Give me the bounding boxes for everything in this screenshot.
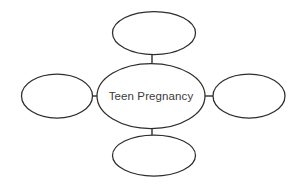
concept-map-diagram: Teen Pregnancy <box>0 0 304 189</box>
branch-node-left-ellipse[interactable] <box>22 74 93 118</box>
concept-map-canvas: Teen Pregnancy <box>0 0 304 189</box>
branch-node-right[interactable] <box>213 74 285 118</box>
branch-node-bottom-ellipse[interactable] <box>113 135 196 176</box>
branch-node-right-ellipse[interactable] <box>213 74 285 118</box>
branch-node-top-ellipse[interactable] <box>113 12 196 55</box>
branch-node-bottom[interactable] <box>113 135 196 176</box>
center-node-label: Teen Pregnancy <box>109 90 194 102</box>
center-node[interactable]: Teen Pregnancy <box>97 64 205 129</box>
branch-node-top[interactable] <box>113 12 196 55</box>
branch-node-left[interactable] <box>22 74 93 118</box>
